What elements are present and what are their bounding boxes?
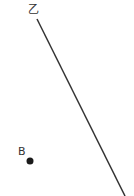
line-label: 乙 [28, 3, 39, 16]
geometry-diagram: 乙 B [0, 0, 134, 196]
point-b [27, 158, 34, 165]
point-label: B [18, 145, 26, 158]
line-yi [37, 19, 125, 196]
